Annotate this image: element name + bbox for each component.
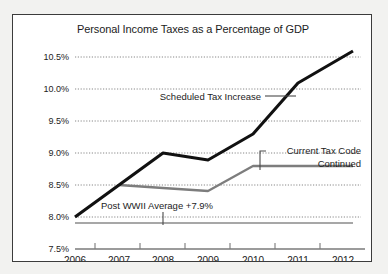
ytick-label-10-0: 10.0% xyxy=(43,84,69,94)
ytick-label-8-0: 8.0% xyxy=(48,212,69,222)
chart-plot-area: 10.5% 10.0% 9.5% 9.0% 8.5% 8.0% 7.5% 200… xyxy=(13,15,372,262)
ytick-label-9-0: 9.0% xyxy=(48,148,69,158)
chart-frame: Personal Income Taxes as a Percentage of… xyxy=(12,14,372,262)
annotation-current-tax-code-line2: Continued xyxy=(318,158,361,169)
xtick-label-2007: 2007 xyxy=(108,255,131,262)
series-line-scheduled-tax-increase xyxy=(75,51,353,217)
annotation-scheduled-tax-increase: Scheduled Tax Increase xyxy=(160,91,261,102)
xtick-label-2010: 2010 xyxy=(242,255,265,262)
xtick-label-2008: 2008 xyxy=(152,255,175,262)
annotation-post-wwii-average: Post WWII Average +7.9% xyxy=(101,200,214,211)
xtick-label-2012: 2012 xyxy=(332,255,355,262)
series-line-current-tax-code xyxy=(119,166,353,191)
ytick-label-9-5: 9.5% xyxy=(48,116,69,126)
annotation-current-tax-code-line1: Current Tax Code xyxy=(287,145,361,156)
ytick-label-10-5: 10.5% xyxy=(43,52,69,62)
xtick-label-2006: 2006 xyxy=(64,255,87,262)
xtick-label-2011: 2011 xyxy=(287,255,309,262)
xtick-label-2009: 2009 xyxy=(197,255,220,262)
ytick-label-7-5: 7.5% xyxy=(48,244,69,254)
ytick-label-8-5: 8.5% xyxy=(48,180,69,190)
